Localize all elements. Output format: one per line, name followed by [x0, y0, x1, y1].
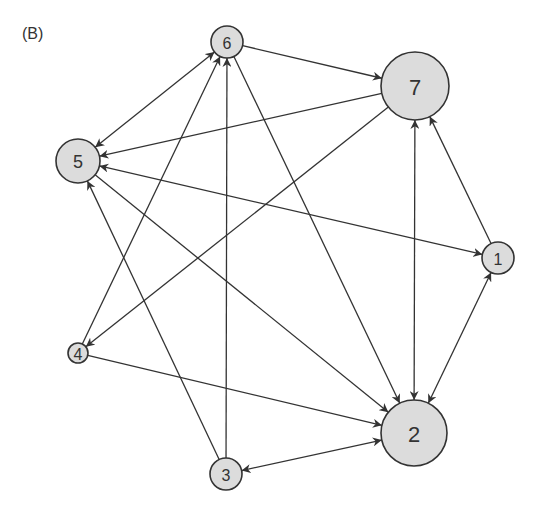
node-6: 6	[211, 26, 243, 58]
node-7: 7	[381, 52, 449, 120]
directed-graph: 1234567	[0, 0, 535, 509]
edge-1-2	[428, 272, 491, 403]
node-label: 5	[73, 152, 83, 172]
edge-7-5	[99, 93, 381, 156]
nodes-layer: 1234567	[56, 26, 514, 490]
edge-3-6	[226, 58, 227, 458]
node-label: 2	[408, 422, 420, 447]
node-3: 3	[210, 458, 242, 490]
node-label: 7	[409, 75, 421, 100]
node-label: 3	[222, 467, 231, 484]
node-5: 5	[56, 139, 100, 183]
node-label: 4	[74, 346, 83, 363]
node-1: 1	[482, 242, 514, 274]
edge-5-1	[99, 166, 482, 254]
edge-7-4	[86, 107, 389, 347]
edge-2-7	[414, 120, 415, 400]
node-4: 4	[68, 343, 88, 363]
edge-4-6	[82, 56, 220, 344]
edge-3-2	[242, 440, 382, 471]
edge-1-7	[430, 117, 491, 244]
edge-5-2	[95, 175, 388, 412]
node-label: 1	[494, 251, 503, 268]
edge-6-7	[243, 46, 382, 79]
edge-4-2	[88, 355, 382, 425]
node-label: 6	[223, 35, 232, 52]
edge-5-6	[95, 52, 214, 147]
node-2: 2	[381, 400, 447, 466]
